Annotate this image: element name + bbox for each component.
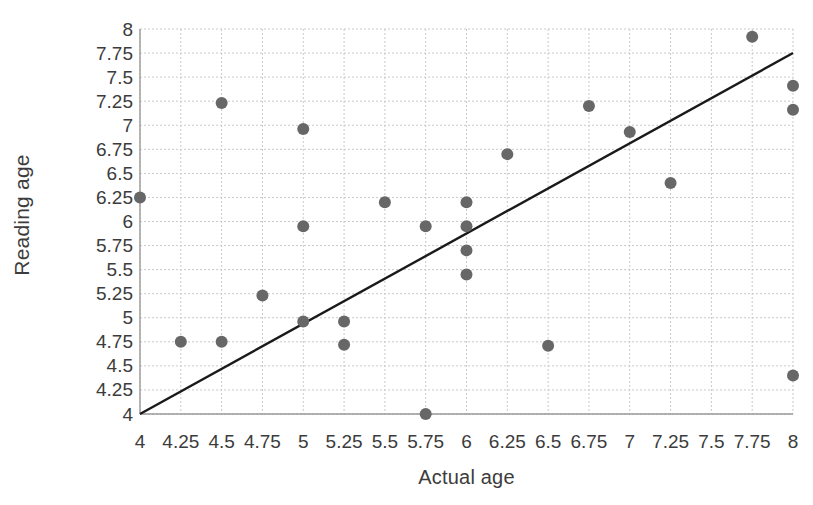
x-axis-title: Actual age — [140, 466, 793, 489]
x-axis-tick-label: 6 — [461, 432, 472, 451]
data-point — [338, 316, 350, 328]
x-axis-tick-label: 7.75 — [734, 432, 771, 451]
x-axis-tick-label: 8 — [788, 432, 799, 451]
data-point — [134, 191, 146, 203]
x-axis-tick-label: 6.75 — [570, 432, 607, 451]
data-point — [420, 220, 432, 232]
data-point — [542, 340, 554, 352]
x-axis-tick-label: 7 — [624, 432, 635, 451]
x-axis-tick-label: 7.5 — [698, 432, 724, 451]
x-axis-tick-label: 5 — [298, 432, 309, 451]
x-axis-tick-label: 6.5 — [535, 432, 561, 451]
trend-line — [140, 53, 793, 414]
x-axis-title-text: Actual age — [418, 466, 515, 488]
data-point — [624, 126, 636, 138]
x-axis-tick-labels: 44.254.54.7555.255.55.7566.256.56.7577.2… — [0, 432, 813, 458]
data-point — [461, 196, 473, 208]
data-point — [461, 244, 473, 256]
data-point — [461, 220, 473, 232]
data-point — [787, 370, 799, 382]
x-axis-tick-label: 4.5 — [208, 432, 234, 451]
x-axis-tick-label: 5.5 — [372, 432, 398, 451]
data-point — [746, 31, 758, 43]
data-point — [216, 336, 228, 348]
data-point — [461, 268, 473, 280]
data-point — [297, 316, 309, 328]
data-point — [665, 177, 677, 189]
data-point — [175, 336, 187, 348]
data-point — [787, 104, 799, 116]
x-axis-tick-label: 5.25 — [326, 432, 363, 451]
data-point — [216, 97, 228, 109]
data-point — [420, 408, 432, 420]
x-axis-tick-label: 4 — [135, 432, 146, 451]
x-axis-tick-label: 4.25 — [162, 432, 199, 451]
data-point — [787, 80, 799, 92]
plot-area — [0, 0, 813, 505]
x-axis-tick-label: 7.25 — [652, 432, 689, 451]
x-axis-tick-label: 4.75 — [244, 432, 281, 451]
data-point — [297, 220, 309, 232]
scatter-chart: Reading age 87.757.57.2576.756.56.2565.7… — [0, 0, 813, 505]
data-point — [583, 100, 595, 112]
data-point — [379, 196, 391, 208]
x-axis-tick-label: 6.25 — [489, 432, 526, 451]
x-axis-tick-label: 5.75 — [407, 432, 444, 451]
data-point — [256, 290, 268, 302]
data-point — [297, 123, 309, 135]
data-point — [501, 148, 513, 160]
data-point — [338, 339, 350, 351]
